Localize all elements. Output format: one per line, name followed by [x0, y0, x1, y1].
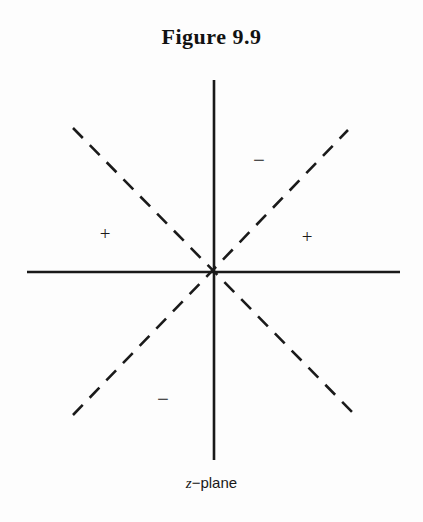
sector-label-right-plus: + — [302, 227, 313, 246]
sector-label-bottom-minus: − — [157, 389, 169, 410]
plane-caption: z−plane — [0, 474, 423, 492]
caption-plane-text: −plane — [192, 474, 237, 491]
sector-label-top-minus: − — [253, 150, 265, 171]
figure-container: Figure 9.9 + + − − z−plane — [0, 0, 423, 522]
sector-label-left-plus: + — [100, 224, 111, 243]
z-plane-diagram — [0, 0, 423, 522]
